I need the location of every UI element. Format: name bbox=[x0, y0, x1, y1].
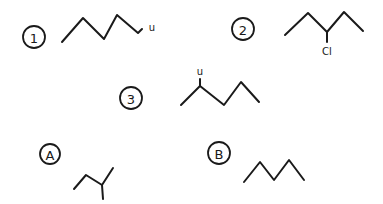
carbon-chain-2 bbox=[285, 12, 363, 35]
structure-b: B bbox=[208, 142, 304, 182]
chlorine-label-1: u bbox=[149, 22, 155, 33]
structure-a: A bbox=[40, 144, 113, 199]
structure-1: 1 u bbox=[23, 15, 155, 48]
structures-canvas: 1 u 2 Cl 3 u A B bbox=[0, 0, 383, 204]
carbon-chain-1 bbox=[62, 15, 142, 42]
methyl-branch-a bbox=[102, 185, 103, 199]
chlorine-label-3: u bbox=[197, 66, 203, 77]
label-2: 2 bbox=[239, 23, 247, 38]
carbon-chain-3 bbox=[181, 82, 259, 105]
label-b: B bbox=[215, 147, 224, 162]
carbon-chain-b bbox=[244, 160, 304, 182]
structure-2: 2 Cl bbox=[232, 12, 363, 57]
carbon-chain-a bbox=[74, 168, 113, 189]
chlorine-label-2: Cl bbox=[322, 46, 332, 57]
label-a: A bbox=[46, 148, 55, 163]
structure-3: 3 u bbox=[120, 66, 259, 110]
label-1: 1 bbox=[30, 31, 38, 46]
label-3: 3 bbox=[127, 92, 135, 107]
